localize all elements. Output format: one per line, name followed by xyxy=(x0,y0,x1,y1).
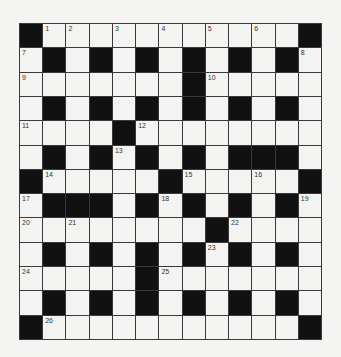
crossword-cell[interactable] xyxy=(90,24,112,47)
crossword-cell[interactable]: 2 xyxy=(66,24,88,47)
crossword-cell[interactable] xyxy=(90,170,112,193)
crossword-cell[interactable] xyxy=(43,267,65,290)
crossword-cell[interactable] xyxy=(136,24,158,47)
crossword-cell[interactable] xyxy=(90,121,112,144)
crossword-cell[interactable] xyxy=(90,316,112,339)
crossword-cell[interactable]: 25 xyxy=(159,267,181,290)
crossword-cell[interactable] xyxy=(252,73,274,96)
crossword-cell[interactable] xyxy=(229,24,251,47)
crossword-cell[interactable] xyxy=(276,316,298,339)
crossword-cell[interactable] xyxy=(20,146,42,169)
crossword-cell[interactable] xyxy=(299,291,321,314)
crossword-cell[interactable] xyxy=(206,316,228,339)
crossword-cell[interactable]: 15 xyxy=(183,170,205,193)
crossword-cell[interactable]: 5 xyxy=(206,24,228,47)
crossword-cell[interactable] xyxy=(159,146,181,169)
crossword-cell[interactable]: 1 xyxy=(43,24,65,47)
crossword-cell[interactable] xyxy=(229,73,251,96)
crossword-cell[interactable] xyxy=(159,316,181,339)
crossword-cell[interactable] xyxy=(66,291,88,314)
crossword-cell[interactable] xyxy=(206,291,228,314)
crossword-cell[interactable] xyxy=(183,24,205,47)
crossword-cell[interactable] xyxy=(252,48,274,71)
crossword-cell[interactable] xyxy=(66,121,88,144)
crossword-cell[interactable]: 14 xyxy=(43,170,65,193)
crossword-cell[interactable] xyxy=(206,170,228,193)
crossword-cell[interactable] xyxy=(252,121,274,144)
crossword-cell[interactable]: 13 xyxy=(113,146,135,169)
crossword-cell[interactable] xyxy=(252,291,274,314)
crossword-cell[interactable] xyxy=(90,73,112,96)
crossword-cell[interactable] xyxy=(159,48,181,71)
crossword-cell[interactable] xyxy=(66,243,88,266)
crossword-cell[interactable]: 4 xyxy=(159,24,181,47)
crossword-cell[interactable] xyxy=(299,218,321,241)
crossword-cell[interactable]: 21 xyxy=(66,218,88,241)
crossword-cell[interactable] xyxy=(136,316,158,339)
crossword-cell[interactable] xyxy=(299,267,321,290)
crossword-cell[interactable] xyxy=(159,73,181,96)
crossword-cell[interactable] xyxy=(113,97,135,120)
crossword-cell[interactable] xyxy=(252,194,274,217)
crossword-cell[interactable] xyxy=(299,121,321,144)
crossword-cell[interactable] xyxy=(206,97,228,120)
crossword-cell[interactable]: 19 xyxy=(299,194,321,217)
crossword-cell[interactable] xyxy=(252,243,274,266)
crossword-cell[interactable] xyxy=(229,170,251,193)
crossword-cell[interactable] xyxy=(252,97,274,120)
crossword-cell[interactable] xyxy=(113,48,135,71)
crossword-cell[interactable] xyxy=(183,121,205,144)
crossword-cell[interactable] xyxy=(276,24,298,47)
crossword-cell[interactable] xyxy=(229,316,251,339)
crossword-cell[interactable] xyxy=(113,194,135,217)
crossword-cell[interactable]: 17 xyxy=(20,194,42,217)
crossword-cell[interactable]: 8 xyxy=(299,48,321,71)
crossword-cell[interactable] xyxy=(113,218,135,241)
crossword-cell[interactable]: 23 xyxy=(206,243,228,266)
crossword-cell[interactable] xyxy=(20,243,42,266)
crossword-cell[interactable]: 9 xyxy=(20,73,42,96)
crossword-cell[interactable] xyxy=(229,121,251,144)
crossword-cell[interactable] xyxy=(113,291,135,314)
crossword-cell[interactable] xyxy=(66,267,88,290)
crossword-cell[interactable] xyxy=(252,218,274,241)
crossword-cell[interactable] xyxy=(90,267,112,290)
crossword-cell[interactable] xyxy=(20,291,42,314)
crossword-cell[interactable] xyxy=(136,170,158,193)
crossword-cell[interactable] xyxy=(43,218,65,241)
crossword-cell[interactable] xyxy=(183,316,205,339)
crossword-cell[interactable] xyxy=(20,97,42,120)
crossword-cell[interactable] xyxy=(206,267,228,290)
crossword-cell[interactable]: 12 xyxy=(136,121,158,144)
crossword-cell[interactable] xyxy=(66,316,88,339)
crossword-cell[interactable] xyxy=(136,218,158,241)
crossword-cell[interactable]: 26 xyxy=(43,316,65,339)
crossword-cell[interactable] xyxy=(252,267,274,290)
crossword-cell[interactable] xyxy=(206,121,228,144)
crossword-cell[interactable] xyxy=(113,170,135,193)
crossword-cell[interactable] xyxy=(66,48,88,71)
crossword-cell[interactable] xyxy=(113,316,135,339)
crossword-cell[interactable] xyxy=(299,243,321,266)
crossword-cell[interactable] xyxy=(136,73,158,96)
crossword-cell[interactable]: 22 xyxy=(229,218,251,241)
crossword-cell[interactable]: 6 xyxy=(252,24,274,47)
crossword-cell[interactable] xyxy=(113,267,135,290)
crossword-cell[interactable] xyxy=(229,267,251,290)
crossword-cell[interactable]: 10 xyxy=(206,73,228,96)
crossword-cell[interactable] xyxy=(66,73,88,96)
crossword-cell[interactable] xyxy=(299,97,321,120)
crossword-cell[interactable] xyxy=(90,218,112,241)
crossword-cell[interactable] xyxy=(183,267,205,290)
crossword-cell[interactable] xyxy=(206,48,228,71)
crossword-cell[interactable]: 24 xyxy=(20,267,42,290)
crossword-cell[interactable]: 3 xyxy=(113,24,135,47)
crossword-cell[interactable]: 11 xyxy=(20,121,42,144)
crossword-cell[interactable] xyxy=(113,243,135,266)
crossword-cell[interactable]: 20 xyxy=(20,218,42,241)
crossword-cell[interactable] xyxy=(276,121,298,144)
crossword-cell[interactable] xyxy=(276,170,298,193)
crossword-cell[interactable] xyxy=(276,267,298,290)
crossword-cell[interactable] xyxy=(66,170,88,193)
crossword-cell[interactable] xyxy=(113,73,135,96)
